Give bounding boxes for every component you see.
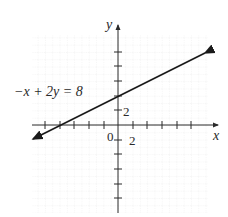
grid	[32, 35, 208, 213]
y-axis-label: y	[104, 17, 113, 32]
y-tick-label: 2	[123, 104, 130, 119]
equation-label: −x + 2y = 8	[14, 84, 83, 99]
x-axis-label: x	[212, 128, 220, 143]
coordinate-plane: y x 0 2 2 −x + 2y = 8	[0, 0, 228, 217]
origin-label: 0	[107, 129, 114, 144]
x-tick-label: 2	[129, 133, 136, 148]
